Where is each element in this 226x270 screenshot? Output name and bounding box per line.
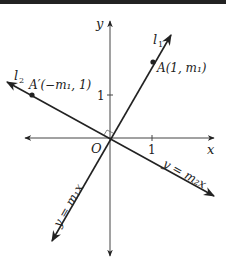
x-tick-label: 1 <box>148 143 156 157</box>
y-axis-label: y <box>95 16 104 31</box>
origin-label: O <box>91 141 102 156</box>
point-A-prime <box>29 92 34 97</box>
y-tick-label: 1 <box>97 89 105 103</box>
svg-text:l: l <box>153 32 157 47</box>
svg-text:2: 2 <box>19 76 24 85</box>
equation-l2: y = m₂x <box>160 156 209 192</box>
svg-text:1: 1 <box>158 40 163 49</box>
equation-l1: y = m₁x <box>50 181 86 230</box>
right-angle-marker <box>104 130 113 135</box>
x-axis-label: x <box>207 142 215 157</box>
diagram-root: y x O 1 1 l 1 l 2 A(1, m₁) A′(−m₁, 1) y … <box>0 0 226 270</box>
point-A-prime-label: A′(−m₁, 1) <box>28 78 92 92</box>
coordinate-diagram: y x O 1 1 l 1 l 2 A(1, m₁) A′(−m₁, 1) y … <box>0 0 226 270</box>
label-l1: l 1 <box>153 32 163 49</box>
svg-text:l: l <box>14 68 18 83</box>
point-A <box>150 59 155 64</box>
label-l2: l 2 <box>14 68 24 85</box>
point-A-label: A(1, m₁) <box>156 61 207 75</box>
